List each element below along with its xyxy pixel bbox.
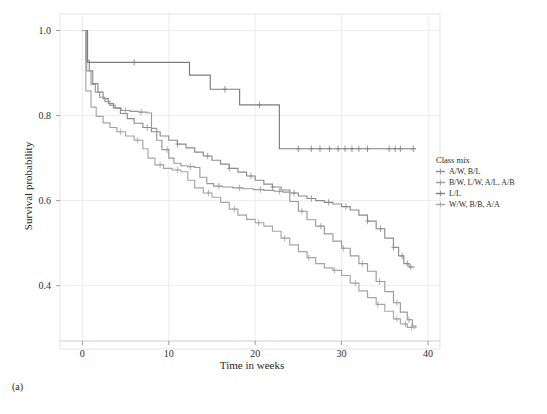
- censor-tick: [327, 146, 331, 152]
- censor-tick: [395, 316, 399, 322]
- censor-tick: [344, 203, 348, 209]
- chart-legend: Class mixA/W, B/LB/W, L/W, A/L, A/BL/LW/…: [430, 18, 515, 240]
- x-axis-label: Time in weeks: [220, 359, 284, 371]
- censor-tick: [360, 260, 364, 266]
- censor-tick: [282, 235, 286, 241]
- x-tick-label: 10: [164, 348, 174, 359]
- y-tick-label: 0.4: [39, 280, 52, 291]
- censor-tick: [145, 124, 149, 130]
- legend-item-1[interactable]: B/W, L/W, A/L, A/B: [436, 178, 515, 187]
- censor-tick: [175, 141, 179, 147]
- censor-tick: [343, 146, 347, 152]
- censor-tick: [205, 153, 209, 159]
- legend-item-label: B/W, L/W, A/L, A/B: [449, 178, 515, 187]
- survival-curve-series-2: [82, 31, 416, 149]
- censor-tick: [132, 59, 136, 65]
- legend-title: Class mix: [436, 155, 471, 165]
- censor-tick: [270, 184, 274, 190]
- censor-tick: [206, 190, 210, 196]
- x-tick-label: 40: [423, 348, 433, 359]
- legend-item-label: W/W, B/B, A/A: [449, 200, 500, 209]
- censor-tick: [411, 146, 415, 152]
- censor-tick: [309, 146, 313, 152]
- censor-tick: [326, 199, 330, 205]
- censor-tick: [300, 208, 304, 214]
- censor-tick: [135, 137, 139, 143]
- censor-marks: [118, 59, 415, 330]
- censor-tick: [398, 146, 402, 152]
- y-tick-label: 0.6: [39, 195, 52, 206]
- x-tick-label: 30: [337, 348, 347, 359]
- censor-tick: [223, 86, 227, 92]
- censor-tick: [188, 163, 192, 169]
- y-tick-label: 0.8: [39, 110, 52, 121]
- censor-tick: [123, 107, 127, 113]
- censor-tick: [387, 146, 391, 152]
- plot-frame: [60, 14, 440, 349]
- censor-tick: [318, 146, 322, 152]
- x-tick-label: 0: [80, 348, 85, 359]
- legend-item-label: L/L: [449, 189, 461, 198]
- y-axis-label: Survival probability: [22, 141, 34, 230]
- legend-item-0[interactable]: A/W, B/L: [436, 167, 480, 176]
- censor-tick: [357, 146, 361, 152]
- censor-tick: [350, 146, 354, 152]
- censor-tick: [319, 223, 323, 229]
- survival-curve-series-1: [82, 31, 416, 329]
- censor-tick: [232, 206, 236, 212]
- survival-curves: [82, 31, 416, 330]
- censor-tick: [257, 102, 261, 108]
- censor-tick: [409, 324, 413, 330]
- panel-label: (a): [12, 381, 23, 393]
- censor-tick: [391, 244, 395, 250]
- axis-tick-labels: 0102030400.40.60.81.0: [39, 25, 434, 359]
- censor-tick: [395, 300, 399, 306]
- censor-tick: [365, 218, 369, 224]
- censor-tick: [336, 146, 340, 152]
- y-tick-label: 1.0: [39, 25, 52, 36]
- censor-tick: [227, 165, 231, 171]
- censor-tick: [175, 167, 179, 173]
- grid-lines: [60, 14, 440, 341]
- censor-tick: [118, 129, 122, 135]
- survival-plot-svg: 0102030400.40.60.81.0 Class mixA/W, B/LB…: [0, 0, 547, 414]
- plot-border: [60, 14, 440, 349]
- censor-tick: [292, 190, 296, 196]
- censor-tick: [258, 186, 262, 192]
- censor-tick: [139, 109, 143, 115]
- censor-tick: [256, 220, 260, 226]
- axis-ticks: [56, 31, 440, 345]
- censor-tick: [365, 146, 369, 152]
- censor-tick: [217, 183, 221, 189]
- legend-item-3[interactable]: W/W, B/B, A/A: [436, 200, 500, 209]
- x-tick-label: 20: [250, 348, 260, 359]
- legend-item-label: A/W, B/L: [449, 167, 480, 176]
- censor-tick: [237, 185, 241, 191]
- survival-curve-series-3: [82, 31, 414, 330]
- censor-tick: [158, 162, 162, 168]
- censor-tick: [378, 226, 382, 232]
- censor-tick: [393, 146, 397, 152]
- survival-chart-figure: 0102030400.40.60.81.0 Class mixA/W, B/LB…: [0, 0, 547, 414]
- censor-tick: [296, 146, 300, 152]
- censor-tick: [249, 173, 253, 179]
- censor-tick: [377, 278, 381, 284]
